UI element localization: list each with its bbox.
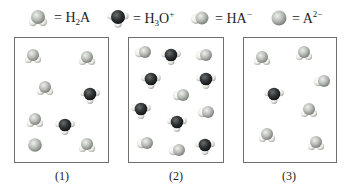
ha-minus-molecule-icon: [196, 105, 216, 119]
ha-minus-molecule-icon: [194, 48, 214, 62]
h2a-molecule-icon: [257, 127, 277, 143]
h2a-molecule-icon: [306, 135, 326, 151]
hydronium-molecule-icon: [80, 85, 100, 105]
h2a-molecule-icon: [23, 48, 43, 64]
ha-minus-molecule-icon: [171, 88, 191, 102]
hydronium-molecule-icon: [141, 70, 161, 90]
hydronium-molecule-icon: [161, 46, 181, 66]
ha-minus-molecule-icon: [167, 143, 187, 157]
a2-minus-ion-icon: [270, 9, 288, 27]
beaker-box-2: [128, 37, 224, 163]
legend-item-ha-minus: = HA−: [189, 6, 252, 30]
hydronium-molecule-icon: [107, 7, 129, 29]
beaker-box-3: [243, 37, 337, 163]
legend-item-h2a: = H2A: [26, 6, 90, 30]
ha-minus-molecule-icon: [133, 45, 153, 59]
box-label-2: (2): [161, 169, 191, 184]
hydronium-molecule-icon: [264, 85, 284, 105]
ha-minus-molecule-icon: [135, 136, 155, 150]
legend-item-hydronium: = H3O+: [107, 6, 174, 30]
hydronium-molecule-icon: [196, 70, 216, 90]
legend-text: = A2−: [292, 9, 322, 27]
ha-minus-molecule-icon: [189, 10, 211, 26]
box-label-3: (3): [274, 169, 304, 184]
h2a-molecule-icon: [26, 8, 50, 28]
legend-text: = H3O+: [133, 9, 174, 28]
legend-item-a2-minus: = A2−: [270, 6, 322, 30]
legend: = H2A = H3O+ = HA− = A2−: [0, 6, 346, 30]
hydronium-molecule-icon: [55, 116, 75, 136]
box-label-1: (1): [47, 169, 77, 184]
h2a-molecule-icon: [25, 112, 45, 128]
h2a-molecule-icon: [299, 102, 319, 118]
a2-minus-ion-icon: [27, 137, 43, 153]
legend-text: = H2A: [54, 10, 90, 27]
hydronium-molecule-icon: [131, 100, 151, 120]
h2a-molecule-icon: [35, 80, 55, 96]
h2a-molecule-icon: [252, 50, 272, 66]
h2a-molecule-icon: [77, 137, 97, 153]
h2a-molecule-icon: [294, 45, 314, 61]
h2a-molecule-icon: [77, 50, 97, 66]
hydronium-molecule-icon: [195, 136, 215, 156]
hydronium-molecule-icon: [167, 113, 187, 133]
beaker-box-1: [14, 37, 109, 163]
legend-text: = HA−: [215, 9, 252, 27]
ha-minus-molecule-icon: [312, 74, 332, 88]
